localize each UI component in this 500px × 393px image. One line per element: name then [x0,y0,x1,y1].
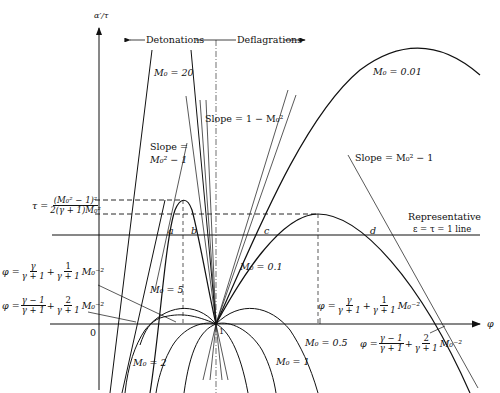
label-m01: M₀ = 0.1 [240,262,283,272]
curve-m001 [216,48,480,324]
point-a: a [168,226,174,236]
label-m1: M₀ = 1 [276,357,310,367]
unit-label: 1 [219,328,224,336]
detonations-label: Detonations [146,35,204,45]
label-m5: M₀ = 5 [150,285,184,295]
y-axis-label: α′/τ [94,12,108,20]
phi-formula-1-right: φ = γγ + 1 + 1γ + 1 M₀⁻² [318,296,420,315]
tau-formula: τ = (M₀² − 1)²2(γ + 1)M₀² [32,196,102,215]
point-d: d [370,226,376,236]
representative-label-1: Representative [408,212,481,222]
deflagrations-label: Deflagrations [237,35,302,45]
slope-left-top: Slope = [150,142,188,152]
phi-formula-2-right: φ = γ − 1γ + 1 + 2γ + 1 M₀⁻² [360,334,462,353]
origin-label: 0 [90,328,96,338]
representative-label-2: ε = τ = 1 line [413,225,471,234]
label-m001: M₀ = 0.01 [373,67,422,77]
label-m05: M₀ = 0.5 [305,338,348,348]
point-c: c [264,226,269,236]
point-b: b [191,226,197,236]
phi-formula-2-left: φ = γ − 1γ + 1 + 2γ + 1 M₀⁻² [2,296,104,315]
slope-left-bottom: M₀² − 1 [150,155,187,165]
label-m2: M₀ = 2 [133,358,167,368]
label-m20: M₀ = 20 [154,68,194,78]
phi-formula-1-left: φ = γγ + 1 + 1γ + 1 M₀⁻² [2,262,104,281]
slope-right-label: Slope = M₀² − 1 [355,153,433,163]
x-axis-label: φ [487,319,494,329]
curve-m2 [125,308,216,393]
slope-one-minus-label: Slope = 1 − M₀² [205,114,283,124]
